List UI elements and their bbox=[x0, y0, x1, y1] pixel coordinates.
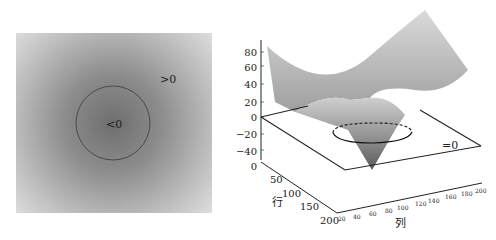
col-tick-140: 140 bbox=[428, 197, 440, 204]
col-tick-20: 20 bbox=[338, 215, 346, 222]
z-tick-0: 0 bbox=[251, 112, 257, 123]
label-outside: >0 bbox=[160, 73, 176, 86]
row-tick-0: 0 bbox=[251, 161, 257, 172]
level-set-image-panel: <0 >0 bbox=[0, 0, 230, 240]
surface-upper bbox=[267, 10, 468, 112]
z-tick-80: 80 bbox=[244, 47, 257, 58]
surface-lower bbox=[295, 98, 405, 170]
row-axis-label: 行 bbox=[272, 196, 283, 209]
col-tick-200: 200 bbox=[475, 187, 487, 194]
row-axis: 0 50 100 150 200 行 bbox=[251, 161, 339, 226]
row-tick-50: 50 bbox=[270, 174, 283, 185]
surface-plot-panel: =0 80 60 40 20 0 −20 −40 0 50 100 150 bbox=[220, 0, 496, 240]
col-tick-180: 180 bbox=[461, 190, 473, 197]
col-tick-80: 80 bbox=[385, 207, 393, 214]
zero-plane-label: =0 bbox=[442, 139, 458, 152]
z-tick-40: 40 bbox=[244, 79, 257, 90]
z-tick-60: 60 bbox=[244, 62, 257, 73]
surface-plot: =0 80 60 40 20 0 −20 −40 0 50 100 150 bbox=[220, 0, 496, 240]
z-tick-neg40: −40 bbox=[236, 146, 257, 157]
col-tick-40: 40 bbox=[353, 213, 361, 220]
level-set-image: <0 >0 bbox=[0, 0, 230, 240]
row-tick-200: 200 bbox=[320, 215, 339, 226]
col-axis: 20 40 60 80 100 120 140 160 180 200 列 bbox=[337, 183, 487, 230]
z-axis: 80 60 40 20 0 −20 −40 bbox=[236, 40, 264, 160]
label-inside: <0 bbox=[106, 118, 122, 131]
col-tick-120: 120 bbox=[415, 200, 427, 207]
col-tick-100: 100 bbox=[397, 204, 409, 211]
col-tick-60: 60 bbox=[369, 210, 377, 217]
z-tick-neg20: −20 bbox=[236, 129, 257, 140]
z-tick-20: 20 bbox=[244, 97, 257, 108]
col-tick-160: 160 bbox=[445, 193, 457, 200]
col-axis-label: 列 bbox=[395, 216, 406, 230]
row-tick-150: 150 bbox=[300, 201, 319, 212]
row-tick-100: 100 bbox=[282, 188, 301, 199]
